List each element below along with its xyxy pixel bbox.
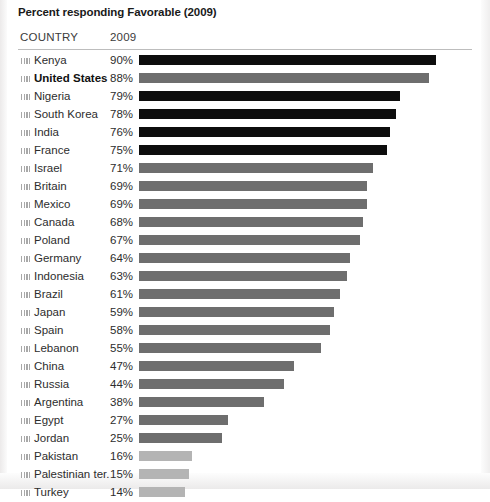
bar-track (139, 487, 469, 497)
bar (139, 361, 294, 371)
bar (139, 163, 373, 173)
bar-track (139, 217, 469, 227)
country-label: Poland (34, 233, 70, 248)
chart-row: Japan59% (0, 304, 490, 322)
percent-value: 25% (110, 431, 133, 446)
bar-track (139, 469, 469, 479)
bar (139, 235, 360, 245)
country-label: Mexico (34, 197, 70, 212)
bar-track (139, 109, 469, 119)
bar (139, 91, 400, 101)
chart-row: South Korea78% (0, 106, 490, 124)
bar-track (139, 181, 469, 191)
chart-row: Brazil61% (0, 286, 490, 304)
flag-icon (21, 310, 30, 316)
flag-icon (21, 112, 30, 118)
percent-value: 79% (110, 89, 133, 104)
bar-track (139, 127, 469, 137)
country-label: South Korea (34, 107, 98, 122)
bar (139, 145, 387, 155)
bar (139, 271, 347, 281)
chart-row: Nigeria79% (0, 88, 490, 106)
chart-row: Egypt27% (0, 412, 490, 430)
country-label: Germany (34, 251, 81, 266)
bar (139, 397, 264, 407)
bar-track (139, 91, 469, 101)
column-header-country: COUNTRY (20, 31, 78, 43)
flag-icon (21, 238, 30, 244)
percent-value: 69% (110, 197, 133, 212)
bar (139, 343, 321, 353)
percent-value: 90% (110, 53, 133, 68)
chart-row: India76% (0, 124, 490, 142)
chart-row: China47% (0, 358, 490, 376)
bar-track (139, 235, 469, 245)
chart-row: Germany64% (0, 250, 490, 268)
chart-row: Spain58% (0, 322, 490, 340)
country-label: United States (34, 71, 108, 86)
country-label: Brazil (34, 287, 63, 302)
bar (139, 325, 330, 335)
bar-track (139, 451, 469, 461)
country-label: India (34, 125, 59, 140)
flag-icon (21, 418, 30, 424)
chart-row: Kenya90% (0, 52, 490, 70)
bar-track (139, 289, 469, 299)
country-label: Japan (34, 305, 65, 320)
chart-row: Russia44% (0, 376, 490, 394)
bar-track (139, 433, 469, 443)
percent-value: 75% (110, 143, 133, 158)
percent-value: 58% (110, 323, 133, 338)
chart-row: Lebanon55% (0, 340, 490, 358)
country-label: Pakistan (34, 449, 78, 464)
flag-icon (21, 166, 30, 172)
bar (139, 289, 340, 299)
bar-track (139, 397, 469, 407)
percent-value: 64% (110, 251, 133, 266)
chart-row: Britain69% (0, 178, 490, 196)
flag-icon (21, 364, 30, 370)
bar (139, 415, 228, 425)
column-header-year: 2009 (110, 31, 136, 43)
percent-value: 88% (110, 71, 133, 86)
bar-track (139, 379, 469, 389)
bar-track (139, 271, 469, 281)
bar (139, 379, 284, 389)
bar (139, 307, 334, 317)
bar (139, 451, 192, 461)
country-label: Palestinian ter. (34, 467, 109, 482)
bar (139, 127, 390, 137)
bar (139, 199, 367, 209)
percent-value: 76% (110, 125, 133, 140)
flag-icon (21, 292, 30, 298)
percent-value: 63% (110, 269, 133, 284)
percent-value: 59% (110, 305, 133, 320)
flag-icon (21, 274, 30, 280)
bar (139, 469, 189, 479)
percent-value: 44% (110, 377, 133, 392)
percent-value: 15% (110, 467, 133, 482)
percent-value: 55% (110, 341, 133, 356)
country-label: Spain (34, 323, 63, 338)
country-label: Argentina (34, 395, 83, 410)
percent-value: 61% (110, 287, 133, 302)
flag-icon (21, 472, 30, 478)
bar-track (139, 253, 469, 263)
chart-row: Mexico69% (0, 196, 490, 214)
flag-icon (21, 184, 30, 190)
bar (139, 433, 222, 443)
flag-icon (21, 58, 30, 64)
bar (139, 487, 185, 497)
bar-track (139, 325, 469, 335)
bar-track (139, 343, 469, 353)
chart-row: Poland67% (0, 232, 490, 250)
country-label: Lebanon (34, 341, 79, 356)
bar-track (139, 415, 469, 425)
chart-title: Percent responding Favorable (2009) (18, 6, 216, 18)
country-label: Canada (34, 215, 74, 230)
bar-track (139, 55, 469, 65)
percent-value: 14% (110, 485, 133, 500)
percent-value: 69% (110, 179, 133, 194)
flag-icon (21, 346, 30, 352)
percent-value: 67% (110, 233, 133, 248)
